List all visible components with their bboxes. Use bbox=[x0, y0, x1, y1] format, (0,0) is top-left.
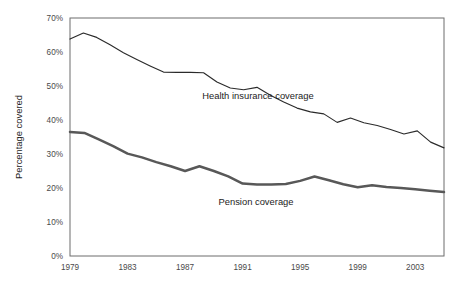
x-axis-tick-label: 1987 bbox=[176, 263, 195, 272]
y-axis-tick-label: 20% bbox=[47, 184, 63, 193]
y-axis-tick-label: 70% bbox=[47, 14, 63, 23]
y-axis-title: Percentage covered bbox=[13, 95, 24, 179]
x-axis-tick-label: 1983 bbox=[118, 263, 137, 272]
pension-coverage-series-label: Pension coverage bbox=[218, 196, 293, 207]
y-axis-tick-label: 0% bbox=[51, 252, 63, 261]
y-axis-tick-label: 30% bbox=[47, 150, 63, 159]
line-chart: 0%10%20%30%40%50%60%70% 1979198319871991… bbox=[0, 0, 458, 289]
health-insurance-series-label: Health insurance coverage bbox=[202, 90, 314, 101]
chart-background bbox=[0, 0, 458, 289]
x-axis-tick-label: 2003 bbox=[406, 263, 425, 272]
x-axis-tick-label: 1979 bbox=[61, 263, 80, 272]
x-axis-tick-label: 1995 bbox=[291, 263, 310, 272]
y-axis-tick-label: 10% bbox=[47, 218, 63, 227]
y-axis-tick-label: 40% bbox=[47, 116, 63, 125]
chart-container: 0%10%20%30%40%50%60%70% 1979198319871991… bbox=[0, 0, 458, 289]
x-axis-tick-label: 1991 bbox=[234, 263, 253, 272]
x-axis-tick-label: 1999 bbox=[349, 263, 368, 272]
y-axis-tick-label: 50% bbox=[47, 82, 63, 91]
y-axis-tick-label: 60% bbox=[47, 48, 63, 57]
